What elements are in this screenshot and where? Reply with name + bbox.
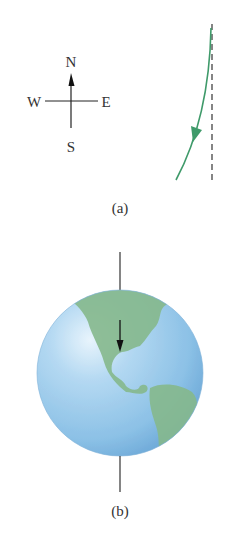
compass-north-label: N bbox=[66, 54, 77, 70]
panel-a-label: (a) bbox=[112, 200, 129, 217]
globe bbox=[37, 281, 203, 462]
compass-south-label: S bbox=[67, 139, 75, 155]
deflected-path bbox=[176, 28, 211, 180]
north-arrow-icon bbox=[69, 73, 75, 86]
figure: N S W E (a) (b) bbox=[0, 0, 232, 536]
compass: N S W E bbox=[27, 54, 111, 155]
compass-east-label: E bbox=[101, 94, 110, 110]
compass-west-label: W bbox=[27, 94, 42, 110]
panel-b-label: (b) bbox=[111, 503, 129, 520]
